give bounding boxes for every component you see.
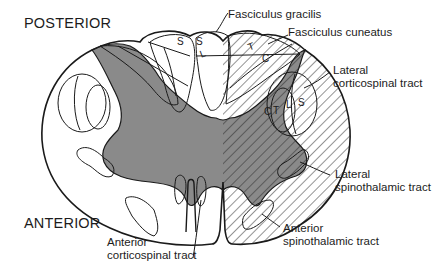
label-anterior-spinothalamic-2: spinothalamic tract: [283, 235, 379, 248]
cuneatus-letter-c: C: [262, 54, 269, 64]
label-anterior-corticospinal-2: corticospinal tract: [107, 249, 196, 262]
label-fasciculus-cuneatus: Fasciculus cuneatus: [288, 26, 392, 39]
label-lateral-corticospinal-2: corticospinal tract: [333, 77, 422, 90]
label-fasciculus-gracilis: Fasciculus gracilis: [228, 8, 321, 21]
spinal-cord-cross-section: [0, 0, 443, 275]
gracilis-letter-s-left: S: [177, 37, 184, 47]
gracilis-letter-s-right: S: [196, 37, 203, 47]
label-anterior-spinothalamic-1: Anterior: [283, 222, 323, 235]
posterior-label: POSTERIOR: [24, 15, 111, 31]
label-lateral-spinothalamic-2: spinothalamic tract: [335, 181, 431, 194]
label-lateral-spinothalamic-1: Lateral: [335, 168, 370, 181]
lcst-letter-t: T: [273, 106, 279, 116]
lcst-letter-s: S: [298, 98, 305, 108]
label-lateral-corticospinal-1: Lateral: [333, 64, 368, 77]
lcst-letter-l: L: [286, 100, 292, 110]
spinal-cord-diagram: POSTERIOR ANTERIOR Fasciculus gracilis F…: [0, 0, 443, 275]
leader-fasciculus-gracilis: [216, 13, 228, 32]
anterior-label: ANTERIOR: [24, 215, 101, 231]
label-anterior-corticospinal-1: Anterior: [107, 236, 147, 249]
lcst-letter-c: C: [264, 107, 271, 117]
